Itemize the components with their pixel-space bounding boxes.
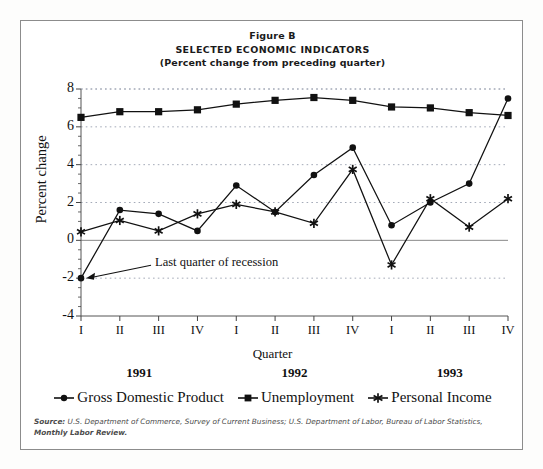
x-axis-group-label: 1991 <box>99 365 179 381</box>
x-axis-group-label: 1993 <box>410 365 490 381</box>
x-axis-group-label: 1992 <box>255 365 335 381</box>
x-tick-label: I <box>221 323 251 338</box>
y-tick-label: -2 <box>48 269 74 285</box>
square-marker-icon <box>237 391 259 405</box>
recession-annotation-arrow <box>86 265 151 280</box>
legend-item-personal-income: Personal Income <box>367 389 491 406</box>
source-tail: Monthly Labor Review. <box>34 428 127 437</box>
legend-label-unemployment: Unemployment <box>261 389 354 406</box>
x-tick-label: IV <box>493 323 523 338</box>
source-body: U.S. Department of Commerce, Survey of C… <box>65 417 482 426</box>
source-note: Source: U.S. Department of Commerce, Sur… <box>34 416 510 438</box>
legend-item-unemployment: Unemployment <box>237 389 354 406</box>
y-tick-label: 6 <box>48 118 74 134</box>
y-tick-label: 2 <box>48 194 74 210</box>
x-tick-label: IV <box>338 323 368 338</box>
chart-legend: Gross Domestic Product Unemployment <box>21 389 524 406</box>
x-tick-label: I <box>377 323 407 338</box>
x-tick-label: II <box>105 323 135 338</box>
y-tick-label: 4 <box>48 156 74 172</box>
x-tick-label: IV <box>182 323 212 338</box>
y-tick-label: 0 <box>48 231 74 247</box>
circle-marker-icon <box>53 391 75 405</box>
plot-area: Percent change Quarter Last quarter of r… <box>21 21 524 451</box>
figure-container: Figure B SELECTED ECONOMIC INDICATORS (P… <box>20 20 523 450</box>
x-tick-label: III <box>144 323 174 338</box>
recession-annotation-label: Last quarter of recession <box>155 255 278 270</box>
legend-label-personal-income: Personal Income <box>391 389 491 406</box>
x-tick-label: II <box>260 323 290 338</box>
y-tick-label: 8 <box>48 80 74 96</box>
source-label: Source: <box>34 417 65 426</box>
x-tick-label: III <box>454 323 484 338</box>
x-axis-title: Quarter <box>21 346 524 362</box>
x-tick-label: I <box>66 323 96 338</box>
chart-canvas <box>21 21 524 451</box>
legend-item-gdp: Gross Domestic Product <box>53 389 224 406</box>
y-axis-title: Percent change <box>33 110 50 250</box>
x-tick-label: III <box>299 323 329 338</box>
series-unemployment <box>77 94 511 121</box>
figure-screenshot: Figure B SELECTED ECONOMIC INDICATORS (P… <box>0 0 543 469</box>
series-gross-domestic-product <box>78 95 512 281</box>
x-tick-label: II <box>415 323 445 338</box>
y-tick-label: -4 <box>48 307 74 323</box>
star-marker-icon <box>367 391 389 405</box>
legend-label-gdp: Gross Domestic Product <box>77 389 224 406</box>
series-personal-income <box>77 165 512 270</box>
